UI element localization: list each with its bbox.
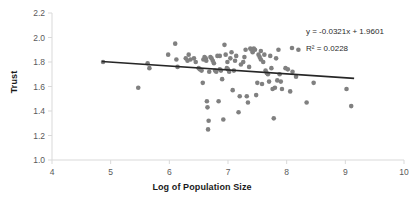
data-point: [271, 116, 276, 121]
data-point: [174, 57, 179, 62]
y-tick-label: 1.6: [33, 82, 45, 92]
y-tick-label: 1.4: [33, 106, 45, 116]
data-point: [262, 52, 267, 57]
data-point: [236, 110, 241, 115]
data-point: [304, 100, 309, 105]
data-point: [193, 60, 198, 65]
y-axis-group: 1.01.21.41.61.82.02.2: [33, 8, 52, 165]
data-point: [234, 54, 239, 59]
data-point: [259, 49, 264, 54]
data-point: [268, 54, 273, 59]
data-point: [288, 89, 293, 94]
data-point: [217, 54, 222, 59]
data-point: [242, 55, 247, 60]
data-point: [221, 117, 226, 122]
y-axis-title: Trust: [9, 59, 19, 105]
x-tick-label: 8: [284, 167, 289, 177]
x-axis-tick-labels: 45678910: [50, 167, 409, 177]
data-point: [206, 119, 211, 124]
data-point: [225, 60, 230, 65]
data-point: [276, 47, 281, 52]
data-point: [344, 87, 349, 92]
x-tick-label: 5: [108, 167, 113, 177]
data-point: [243, 47, 248, 52]
x-axis-title: Log of Population Size: [52, 182, 352, 192]
data-point: [200, 81, 205, 86]
data-point: [279, 79, 284, 84]
x-tick-label: 10: [399, 167, 409, 177]
data-point: [229, 50, 234, 55]
data-point: [280, 87, 285, 92]
data-point: [247, 65, 252, 70]
data-point: [349, 104, 354, 109]
data-point: [166, 52, 171, 57]
data-point: [220, 77, 225, 82]
data-point: [253, 47, 258, 52]
data-point: [269, 66, 274, 71]
data-point: [274, 56, 279, 61]
data-point: [261, 60, 266, 65]
x-axis-group: 45678910: [50, 160, 409, 177]
r-squared-label: R² = 0.0228: [306, 44, 349, 53]
data-point: [311, 81, 316, 86]
x-tick-label: 4: [50, 167, 55, 177]
data-point: [204, 58, 209, 63]
x-tick-label: 9: [343, 167, 348, 177]
data-point: [241, 60, 246, 65]
legend-marker-icon: [290, 46, 295, 51]
y-tick-label: 1.0: [33, 155, 45, 165]
data-point: [244, 94, 249, 99]
data-points-group: [101, 41, 354, 131]
y-tick-label: 1.2: [33, 131, 45, 141]
scatter-chart: 1.01.21.41.61.82.02.2 45678910 y = -0.03…: [0, 0, 414, 204]
x-axis-ticks: [52, 160, 404, 164]
y-axis-ticks: [48, 13, 52, 160]
data-point: [136, 85, 141, 90]
y-tick-label: 2.0: [33, 33, 45, 43]
data-point: [267, 79, 272, 84]
data-point: [233, 58, 238, 63]
data-point: [173, 41, 178, 46]
data-point: [206, 127, 211, 132]
y-tick-label: 1.8: [33, 57, 45, 67]
data-point: [237, 94, 242, 99]
data-point: [205, 105, 210, 110]
data-point: [230, 88, 235, 93]
x-tick-label: 7: [226, 167, 231, 177]
data-point: [223, 52, 228, 57]
data-point: [216, 99, 221, 104]
data-point: [147, 66, 152, 71]
x-tick-label: 6: [167, 167, 172, 177]
data-point: [296, 47, 301, 52]
regression-equation-label: y = -0.0321x + 1.9601: [306, 27, 384, 36]
y-axis-tick-labels: 1.01.21.41.61.82.02.2: [33, 8, 45, 165]
data-point: [286, 67, 291, 72]
data-point: [205, 99, 210, 104]
data-point: [246, 100, 251, 105]
data-point: [260, 82, 265, 87]
chart-canvas: 1.01.21.41.61.82.02.2 45678910 y = -0.03…: [0, 0, 414, 204]
data-point: [273, 85, 278, 90]
data-point: [222, 43, 227, 48]
data-point: [186, 52, 191, 57]
data-point: [228, 56, 233, 61]
data-point: [254, 93, 259, 98]
data-point: [207, 70, 212, 75]
y-tick-label: 2.2: [33, 8, 45, 18]
data-point: [255, 81, 260, 86]
data-point: [212, 61, 217, 66]
